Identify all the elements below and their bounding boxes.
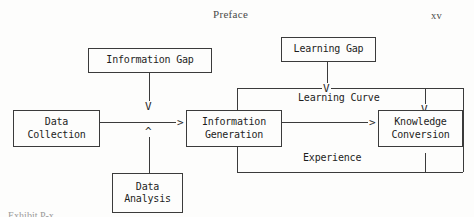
node-data-analysis: Data Analysis — [112, 173, 183, 213]
edge-data-analysis-up — [149, 136, 150, 173]
node-data-collection: Data Collection — [13, 110, 100, 147]
edge-learning-curve-top — [237, 88, 463, 89]
clipped-caption: Exhibit P-x — [8, 210, 54, 217]
arrowhead-right-into-conversion: > — [368, 117, 377, 128]
node-knowledge-conversion: Knowledge Conversion — [378, 110, 463, 147]
arrowhead-down-into-main-line: V — [144, 101, 153, 112]
book-page: Preface xv V ^ > > V V ^ Learning Curve … — [0, 0, 474, 217]
arrowhead-right-into-generation: > — [176, 117, 185, 128]
node-learning-gap: Learning Gap — [281, 37, 376, 62]
edge-label-experience: Experience — [300, 152, 364, 163]
edge-generation-to-conversion — [282, 122, 374, 123]
page-number: xv — [431, 10, 442, 21]
arrowhead-up-into-main-line: ^ — [144, 126, 153, 137]
node-information-generation: Information Generation — [186, 110, 282, 147]
edge-collection-to-generation — [100, 122, 182, 123]
edge-experience-bottom — [237, 172, 463, 173]
node-information-gap: Information Gap — [88, 48, 212, 73]
running-head-title: Preface — [213, 8, 248, 20]
edge-label-learning-curve: Learning Curve — [295, 92, 383, 103]
edge-loop-right-outer — [463, 88, 464, 172]
